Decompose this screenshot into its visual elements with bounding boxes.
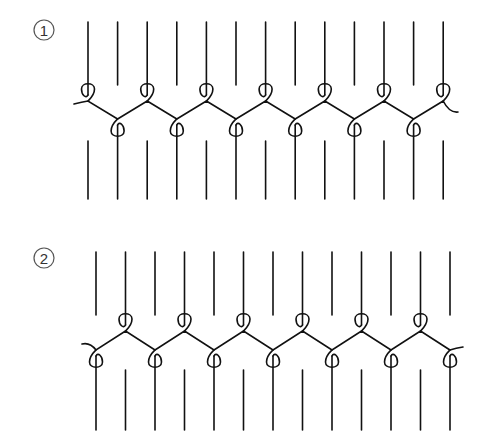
figure-1-label-text: 1: [40, 22, 48, 39]
figure-1-herringbone-stitch: 1: [34, 20, 458, 199]
zigzag-thread: [74, 101, 458, 119]
zigzag-thread: [82, 331, 463, 350]
figure-2-label: 2: [34, 248, 54, 268]
figure-2-threads: [82, 252, 463, 430]
stitch-diagram-canvas: 1 2: [0, 0, 485, 434]
figure-2-label-text: 2: [40, 250, 48, 267]
figure-2-herringbone-stitch: 2: [34, 248, 463, 430]
figure-1-threads: [74, 22, 458, 199]
figure-1-label: 1: [34, 20, 54, 40]
